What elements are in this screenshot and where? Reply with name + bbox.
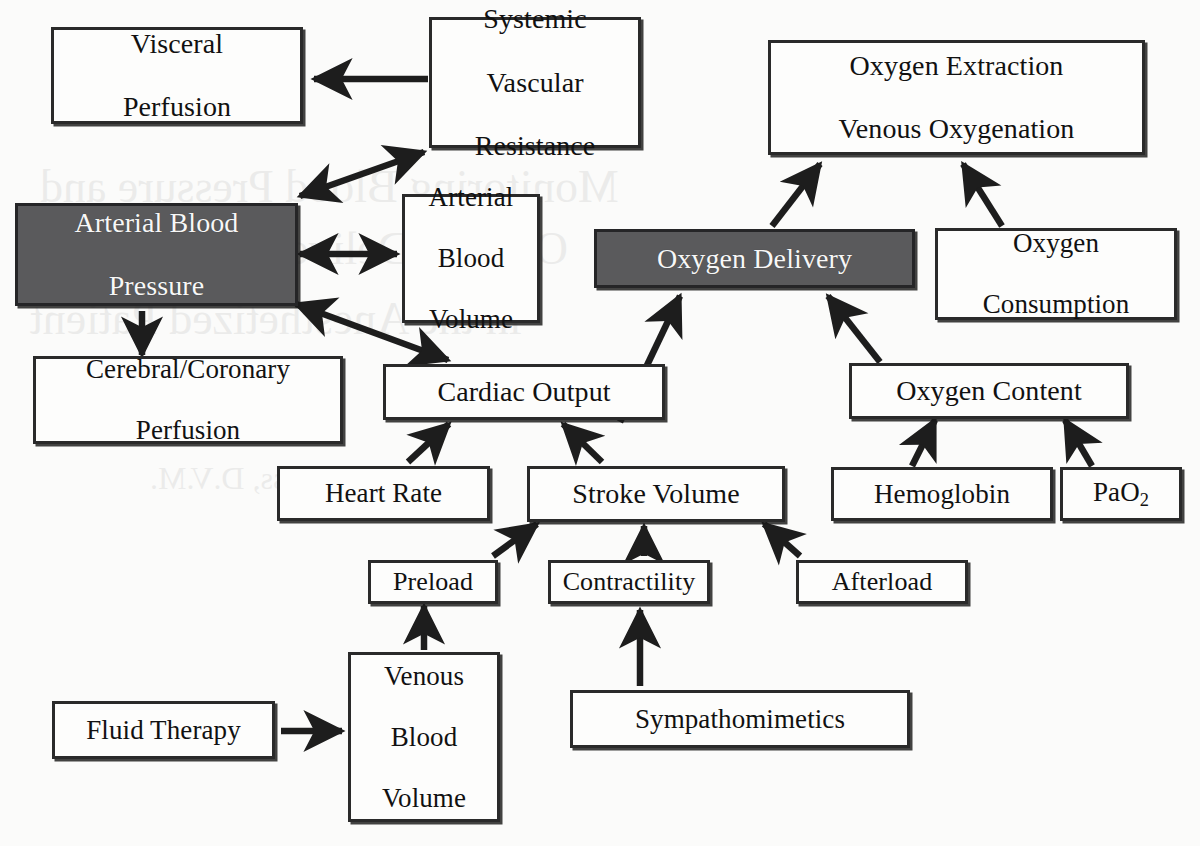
node-label-line: Stroke Volume <box>567 478 745 510</box>
node-label-line: Blood <box>424 243 519 274</box>
node-label-line: Cardiac Output <box>432 376 615 408</box>
node-label-line: Fluid Therapy <box>81 715 246 746</box>
node-label-line: Oxygen Delivery <box>652 243 857 275</box>
edge-abp-svr-bidirectional <box>300 152 424 196</box>
edge-oxygen-delivery-to-oxygen-extraction <box>772 164 820 226</box>
node-label-line: Vascular <box>470 67 601 99</box>
edge-stroke-volume-to-cardiac-output <box>563 424 602 462</box>
node-oxygen-extraction-venous-oxygenation[interactable]: Oxygen ExtractionVenous Oxygenation <box>768 40 1145 155</box>
node-label-line: Blood <box>377 722 471 753</box>
diagram-canvas: Monitoring Blood Pressure and Oxygen Del… <box>0 0 1200 846</box>
node-label-line: Contractility <box>558 567 701 596</box>
node-cerebral-coronary-perfusion[interactable]: Cerebral/CoronaryPerfusion <box>33 356 343 444</box>
node-label-line: Sympathomimetics <box>630 704 850 735</box>
node-label-line: Perfusion <box>81 415 295 446</box>
node-cardiac-output[interactable]: Cardiac Output <box>383 364 665 420</box>
node-label-line: Oxygen Extraction <box>834 50 1080 82</box>
edge-preload-to-stroke-volume <box>493 524 537 556</box>
node-systemic-vascular-resistance[interactable]: SystemicVascularResistance <box>429 17 641 148</box>
node-contractility[interactable]: Contractility <box>548 560 710 604</box>
node-stroke-volume[interactable]: Stroke Volume <box>527 466 785 522</box>
node-arterial-blood-pressure[interactable]: Arterial BloodPressure <box>15 203 298 306</box>
node-pao2[interactable]: PaO2 <box>1060 467 1182 521</box>
node-label-line: Arterial <box>424 182 519 213</box>
node-label-line: Afterload <box>827 567 938 596</box>
node-label-line: Oxygen <box>978 228 1135 259</box>
node-heart-rate[interactable]: Heart Rate <box>277 466 490 521</box>
edge-heart-rate-to-cardiac-output <box>408 424 449 462</box>
edge-afterload-to-stroke-volume <box>764 524 800 556</box>
edge-oxygen-consumption-to-oxygen-extraction <box>963 164 1002 226</box>
node-label-line: Systemic <box>470 3 601 35</box>
node-label-line: Perfusion <box>118 91 236 123</box>
node-oxygen-consumption[interactable]: OxygenConsumption <box>935 228 1177 320</box>
node-label-line: Heart Rate <box>320 478 447 509</box>
edge-oxygen-content-to-oxygen-delivery <box>828 296 880 362</box>
node-label-line: Consumption <box>978 289 1135 320</box>
node-fluid-therapy[interactable]: Fluid Therapy <box>52 701 275 759</box>
node-hemoglobin[interactable]: Hemoglobin <box>831 467 1053 521</box>
edge-hemoglobin-to-oxygen-content <box>912 420 935 466</box>
node-label-line: Volume <box>377 783 471 814</box>
node-arterial-blood-volume[interactable]: ArterialBloodVolume <box>402 194 540 323</box>
node-label-line: Visceral <box>118 28 236 60</box>
node-venous-blood-volume[interactable]: VenousBloodVolume <box>348 652 500 822</box>
node-preload[interactable]: Preload <box>368 560 498 604</box>
node-label-line: Pressure <box>70 270 244 302</box>
node-label-line: Resistance <box>470 130 601 162</box>
node-afterload[interactable]: Afterload <box>796 560 968 604</box>
node-label-line: Cerebral/Coronary <box>81 354 295 385</box>
node-visceral-perfusion[interactable]: VisceralPerfusion <box>51 27 303 124</box>
node-label-line: Volume <box>424 304 519 335</box>
node-label-line: PaO2 <box>1088 477 1154 511</box>
node-sympathomimetics[interactable]: Sympathomimetics <box>570 690 910 748</box>
edge-pao2-to-oxygen-content <box>1065 420 1092 466</box>
node-label-line: Arterial Blood <box>70 207 244 239</box>
node-label-line: Venous Oxygenation <box>834 113 1080 145</box>
node-label-line: Oxygen Content <box>891 375 1087 407</box>
node-oxygen-delivery[interactable]: Oxygen Delivery <box>594 229 915 288</box>
node-label-line: Venous <box>377 661 471 692</box>
node-label-line: Preload <box>388 567 478 596</box>
node-label-line: Hemoglobin <box>869 479 1015 510</box>
node-oxygen-content[interactable]: Oxygen Content <box>849 363 1129 419</box>
